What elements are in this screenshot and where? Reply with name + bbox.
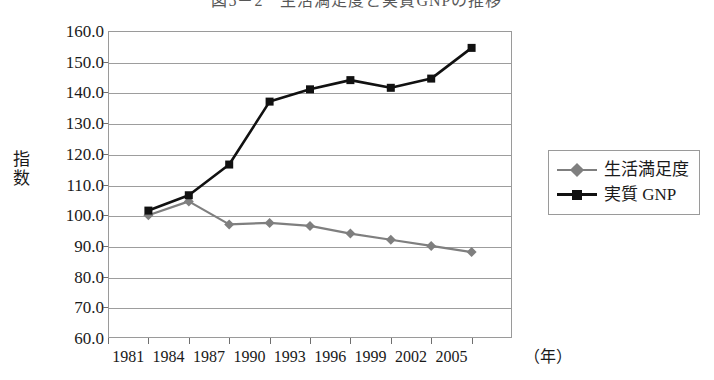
x-axis-tick-mark [108,338,109,344]
data-point-diamond [467,247,477,257]
data-point-square [427,75,435,83]
y-axis-tick-label: 130.0 [66,115,104,132]
x-axis-tick-mark [229,338,230,344]
legend-item-life-satisfaction: 生活満足度 [557,157,689,182]
chart-figure: 指 数 160.0150.0140.0130.0120.0110.0100.09… [0,0,714,380]
x-axis-tick-mark [431,338,432,344]
series-life-satisfaction [143,196,476,257]
x-axis-tick-mark [310,338,311,344]
x-axis-tick-label: 1996 [314,348,346,366]
x-axis-tick-mark [391,338,392,344]
legend-label-life-satisfaction: 生活満足度 [604,161,689,178]
legend-item-real-gnp: 実質 GNP [557,182,689,207]
x-axis-tick-label: 2005 [435,348,467,366]
y-axis-tick-label: 110.0 [66,176,104,193]
x-axis-tick-label: 2002 [395,348,427,366]
legend-key-diamond-icon [557,163,597,177]
y-axis-tick-label: 150.0 [66,53,104,70]
y-axis-tick-label: 60.0 [74,330,104,347]
series-real-gnp [144,44,475,215]
x-axis-tick-label: 1993 [274,348,306,366]
data-point-diamond [224,219,234,229]
y-axis-labels: 160.0150.0140.0130.0120.0110.0100.090.08… [28,31,104,338]
y-axis-tick-label: 140.0 [66,84,104,101]
data-point-diamond [265,218,275,228]
x-axis-tick-label: 1990 [233,348,265,366]
y-axis-tick-label: 120.0 [66,145,104,162]
data-point-square [387,84,395,92]
x-axis-tick-mark [350,338,351,344]
data-point-square [225,161,233,169]
x-axis-tick-mark [472,338,473,344]
data-series-layer [108,31,512,338]
data-point-diamond [305,221,315,231]
y-axis-tick-label: 80.0 [74,268,104,285]
y-axis-tick-label: 100.0 [66,207,104,224]
data-point-square [306,85,314,93]
data-point-square [346,76,354,84]
series-line [148,48,471,211]
y-axis-tick-label: 70.0 [74,299,104,316]
x-axis-tick-mark [189,338,190,344]
x-axis-unit-label: （年） [524,348,572,366]
x-axis-tick-mark [270,338,271,344]
data-point-diamond [345,229,355,239]
x-axis-tick-label: 1999 [355,348,387,366]
data-point-square [144,207,152,215]
data-point-diamond [426,241,436,251]
legend-key-square-icon [557,188,597,202]
x-axis-tick-label: 1987 [193,348,225,366]
legend-label-real-gnp: 実質 GNP [604,186,676,203]
data-point-diamond [386,235,396,245]
x-axis-tick-label: 1984 [153,348,185,366]
data-point-square [468,44,476,52]
y-axis-tick-label: 160.0 [66,23,104,40]
y-axis-tick-label: 90.0 [74,237,104,254]
data-point-square [185,191,193,199]
x-axis-tick-mark [148,338,149,344]
x-axis-tick-label: 1981 [112,348,144,366]
chart-legend: 生活満足度 実質 GNP [548,150,700,215]
data-point-square [266,98,274,106]
